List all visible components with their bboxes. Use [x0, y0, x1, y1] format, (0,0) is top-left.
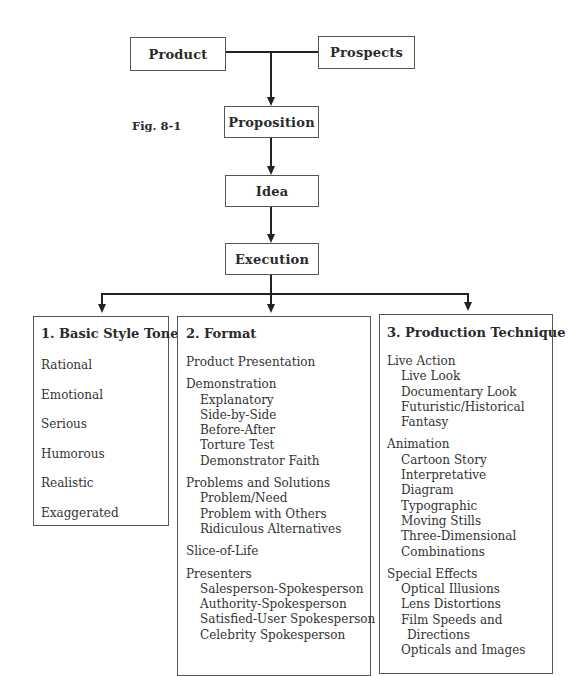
list-item: Rational — [41, 358, 168, 373]
node-idea-label: Idea — [256, 184, 289, 199]
list-item: Typographic — [387, 499, 552, 514]
list-item: Problem/Need — [186, 491, 370, 506]
list-item: Ridiculous Alternatives — [186, 522, 370, 537]
arrow-down-icon — [267, 97, 275, 106]
list-item: Directions — [387, 628, 552, 643]
connector-to-idea — [270, 138, 272, 166]
node-product: Product — [130, 37, 226, 71]
node-prospects: Prospects — [318, 36, 415, 69]
category-production-technique: 3. Production Technique Live Action Live… — [379, 314, 553, 674]
list-item: Realistic — [41, 476, 168, 491]
list-item: Diagram — [387, 483, 552, 498]
list-item: Before-After — [186, 423, 370, 438]
group-heading: Slice-of-Life — [186, 544, 370, 559]
list-item: Moving Stills — [387, 514, 552, 529]
arrow-down-icon — [464, 302, 472, 311]
list-item: Salesperson-Spokesperson — [186, 582, 370, 597]
connector-product-prospects — [226, 51, 318, 53]
arrow-down-icon — [267, 304, 275, 313]
group-product-presentation: Product Presentation — [186, 355, 370, 370]
group-presenters: Presenters Salesperson-Spokesperson Auth… — [186, 567, 370, 643]
group-animation: Animation Cartoon Story Interpretative D… — [387, 437, 552, 559]
category-title: 2. Format — [186, 326, 370, 341]
list-item: Side-by-Side — [186, 408, 370, 423]
list-item: Torture Test — [186, 438, 370, 453]
group-slice-of-life: Slice-of-Life — [186, 544, 370, 559]
category-title: 3. Production Technique — [387, 325, 552, 340]
list-item: Demonstrator Faith — [186, 454, 370, 469]
list-item: Emotional — [41, 388, 168, 403]
list-item: Documentary Look — [387, 385, 552, 400]
group-heading: Product Presentation — [186, 355, 370, 370]
list-item: Live Look — [387, 369, 552, 384]
list-item: Lens Distortions — [387, 597, 552, 612]
category-format: 2. Format Product Presentation Demonstra… — [177, 316, 371, 676]
group-heading: Presenters — [186, 567, 370, 582]
list-item: Cartoon Story — [387, 453, 552, 468]
list-item: Authority-Spokesperson — [186, 597, 370, 612]
group-heading: Problems and Solutions — [186, 476, 370, 491]
list-item: Humorous — [41, 447, 168, 462]
group-demonstration: Demonstration Explanatory Side-by-Side B… — [186, 377, 370, 469]
list-item: Problem with Others — [186, 507, 370, 522]
connector-execution-branch — [270, 275, 272, 295]
connector-to-proposition — [270, 52, 272, 98]
list-item: Celebrity Spokesperson — [186, 628, 370, 643]
list-item: Combinations — [387, 545, 552, 560]
node-proposition-label: Proposition — [228, 115, 315, 130]
group-heading: Special Effects — [387, 567, 552, 582]
node-product-label: Product — [148, 47, 207, 62]
list-item: Interpretative — [387, 468, 552, 483]
list-item: Explanatory — [186, 393, 370, 408]
connector-to-execution — [270, 207, 272, 234]
arrow-down-icon — [98, 304, 106, 313]
connector-branch-horizontal — [101, 293, 469, 295]
list-item: Serious — [41, 417, 168, 432]
category-basic-style-tone: 1. Basic Style Tone Rational Emotional S… — [33, 316, 169, 526]
arrow-down-icon — [267, 234, 275, 243]
list-item: Film Speeds and — [387, 613, 552, 628]
group-problems-and-solutions: Problems and Solutions Problem/Need Prob… — [186, 476, 370, 537]
list-item: Three-Dimensional — [387, 529, 552, 544]
group-special-effects: Special Effects Optical Illusions Lens D… — [387, 567, 552, 659]
category-title: 1. Basic Style Tone — [41, 326, 168, 341]
node-proposition: Proposition — [224, 106, 319, 138]
node-prospects-label: Prospects — [330, 45, 403, 60]
list-item: Opticals and Images — [387, 643, 552, 658]
list-item: Satisfied-User Spokesperson — [186, 612, 370, 627]
group-heading: Demonstration — [186, 377, 370, 392]
node-idea: Idea — [225, 175, 319, 207]
node-execution: Execution — [225, 243, 319, 275]
arrow-down-icon — [267, 166, 275, 175]
group-heading: Live Action — [387, 354, 552, 369]
figure-label: Fig. 8-1 — [132, 119, 181, 133]
group-live-action: Live Action Live Look Documentary Look F… — [387, 354, 552, 430]
group-heading: Animation — [387, 437, 552, 452]
node-execution-label: Execution — [235, 252, 309, 267]
list-item: Futuristic/Historical — [387, 400, 552, 415]
list-item: Fantasy — [387, 415, 552, 430]
list-item: Optical Illusions — [387, 582, 552, 597]
list-item: Exaggerated — [41, 506, 168, 521]
